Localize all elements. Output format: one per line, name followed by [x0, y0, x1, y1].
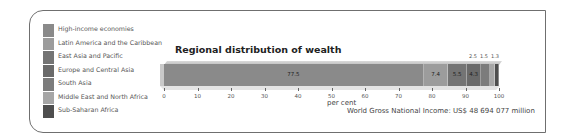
x-axis-label: per cent — [327, 99, 356, 107]
tick-mark — [231, 88, 232, 91]
legend-label: Sub-Saharan Africa — [58, 106, 118, 113]
tick-mark — [332, 88, 333, 91]
legend-label: South Asia — [58, 79, 92, 86]
tick-label: 0 — [162, 93, 166, 99]
legend-label: Europe and Central Asia — [58, 66, 134, 73]
legend-label: Middle East and North Africa — [58, 93, 148, 100]
tick-label: 80 — [429, 93, 436, 99]
segment-value-label: 7.4 — [424, 71, 448, 77]
segment-value-label: 1.3 — [491, 53, 499, 59]
bar-segment: 77.5 — [164, 64, 424, 86]
tick-mark — [298, 88, 299, 91]
segment-value-label: 4.3 — [467, 71, 480, 77]
world-gni-annotation: World Gross National Income: US$ 48 694 … — [347, 107, 535, 115]
bar-segment: 5.5 — [448, 64, 466, 86]
tick-mark — [265, 88, 266, 91]
legend-swatch — [43, 51, 54, 64]
tick-mark — [365, 88, 366, 91]
legend-label: East Asia and Pacific — [58, 52, 123, 59]
tick-mark — [198, 88, 199, 91]
chart-title: Regional distribution of wealth — [175, 44, 341, 55]
tick-label: 90 — [462, 93, 469, 99]
bar-segment: 7.4 — [424, 64, 449, 86]
tick-label: 20 — [228, 93, 235, 99]
legend-swatch — [43, 78, 54, 91]
legend-swatch — [43, 24, 54, 37]
tick-mark — [466, 88, 467, 91]
tick-label: 100 — [494, 93, 505, 99]
tick-label: 30 — [261, 93, 268, 99]
legend-swatch — [43, 65, 54, 78]
tick-mark — [499, 88, 500, 91]
tick-mark — [399, 88, 400, 91]
stacked-bar: 77.57.45.54.3 — [164, 64, 499, 86]
tick-mark — [432, 88, 433, 91]
tick-label: 10 — [194, 93, 201, 99]
bar-segment — [481, 64, 489, 86]
legend-label: Latin America and the Caribbean — [58, 39, 162, 46]
bar-segment — [495, 64, 499, 86]
tick-label: 70 — [395, 93, 402, 99]
segment-value-label: 1.5 — [480, 53, 488, 59]
legend-swatch — [43, 105, 54, 118]
segment-value-label: 2.5 — [469, 53, 477, 59]
bar-segment: 4.3 — [467, 64, 481, 86]
bar-segments: 77.57.45.54.3 — [164, 64, 499, 86]
segment-value-label: 5.5 — [448, 71, 465, 77]
legend-swatch — [43, 38, 54, 51]
tick-label: 60 — [362, 93, 369, 99]
legend-swatch — [43, 92, 54, 105]
segment-value-label: 77.5 — [164, 71, 423, 77]
tick-label: 40 — [295, 93, 302, 99]
legend-label: High-income economies — [58, 25, 134, 32]
tick-mark — [164, 88, 165, 91]
